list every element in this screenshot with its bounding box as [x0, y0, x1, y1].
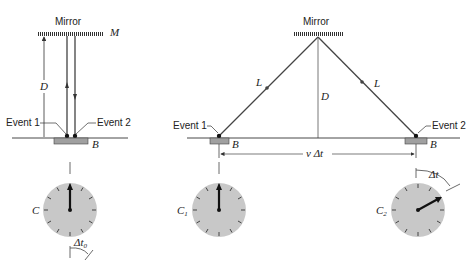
- right-mirror: [293, 32, 343, 36]
- light-path-up: [219, 37, 318, 136]
- right-frame: Mirror L L D Event 1 Event 2 B B v Δt: [173, 16, 466, 237]
- right-base-block-1: [210, 138, 229, 144]
- left-frame: Mirror M D Event 1 Event 2 B: [6, 16, 131, 260]
- right-distance-label: D: [320, 90, 329, 102]
- right-base-block-2: [405, 138, 427, 144]
- left-base-block: [54, 138, 88, 144]
- left-mirror-label: Mirror: [55, 16, 82, 27]
- light-path-down: [318, 37, 416, 136]
- clock-c: [43, 183, 97, 237]
- right-event1-dot: [217, 134, 221, 138]
- clock-c1: [192, 183, 246, 237]
- clock-c1-label: C1: [177, 204, 188, 218]
- clock-c2: [391, 183, 445, 237]
- arrow-up-icon: [65, 82, 69, 88]
- left-event1-dot: [65, 134, 69, 138]
- arrow-down-icon: [73, 94, 77, 100]
- clock-c-label: C: [32, 204, 40, 216]
- right-event2-label: Event 2: [432, 120, 466, 131]
- right-base-label-2: B: [430, 138, 437, 150]
- mirror-symbol: M: [109, 26, 120, 38]
- displacement-label: v Δt: [306, 147, 324, 159]
- time-dilation-diagram: Mirror M D Event 1 Event 2 B: [0, 0, 474, 261]
- right-base-label-1: B: [232, 138, 239, 150]
- left-base-label: B: [92, 138, 99, 150]
- clock-c2-label: C2: [376, 204, 387, 218]
- left-event1-label: Event 1: [6, 117, 40, 128]
- path-label-left: L: [255, 76, 262, 88]
- right-event1-label: Event 1: [173, 120, 207, 131]
- left-event2-dot: [73, 134, 77, 138]
- interval-label-left: Δt0: [73, 236, 88, 250]
- left-distance-label: D: [39, 80, 48, 92]
- interval-label-right: Δt: [428, 168, 439, 180]
- right-mirror-label: Mirror: [303, 16, 330, 27]
- right-event2-dot: [414, 134, 418, 138]
- left-mirror: [37, 32, 103, 36]
- path-label-right: L: [373, 77, 380, 89]
- left-event2-label: Event 2: [97, 117, 131, 128]
